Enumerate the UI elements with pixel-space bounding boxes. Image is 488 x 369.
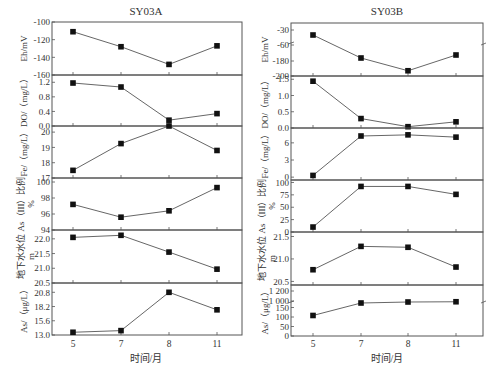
y-tick-label: 21.0 (34, 263, 50, 273)
data-line (73, 32, 217, 65)
y-tick-label: 0.0 (278, 123, 290, 133)
data-point-marker (70, 329, 76, 335)
data-point-marker (358, 116, 364, 122)
y-tick-label: 100 (276, 178, 290, 188)
data-point-marker (358, 244, 364, 250)
panel: 地下水水位m20.521.021.522.0 (15, 230, 242, 288)
data-point-marker (214, 266, 220, 272)
data-point-marker (453, 52, 459, 58)
panel: DO/（mg/L）0.00.51.01.5 (260, 74, 483, 133)
data-line (73, 235, 217, 269)
y-tick-label: 18 (41, 158, 51, 168)
y-tick-label: 100 (276, 312, 290, 322)
y-tick-label: 1 200 (269, 286, 290, 296)
data-point-marker (118, 84, 124, 90)
y-axis-label: As（III）比例% (15, 177, 36, 232)
data-point-marker (166, 249, 172, 255)
data-point-marker (358, 55, 364, 61)
data-point-marker (310, 313, 316, 319)
data-point-marker (118, 233, 124, 239)
y-tick-label: -100 (34, 17, 51, 27)
y-tick-label: 0.5 (278, 107, 290, 117)
y-tick-label: 1.0 (278, 91, 290, 101)
y-tick-label: 21.5 (273, 232, 289, 242)
y-tick-label: 6 (285, 138, 290, 148)
data-point-marker (310, 173, 316, 179)
y-tick-label: 98 (41, 193, 51, 203)
y-axis-label: 地下水水位m (15, 234, 36, 279)
y-tick-label: 25 (280, 215, 290, 225)
data-line (313, 186, 456, 227)
y-tick-label: 100 (37, 177, 51, 187)
data-line (313, 81, 456, 127)
y-tick-label: 20.8 (34, 288, 50, 298)
data-point-marker (405, 132, 411, 138)
y-tick-label: 22.0 (34, 234, 50, 244)
panel: As/（μg/L）0501001501 0001 200 (260, 285, 486, 341)
data-point-marker (166, 117, 172, 123)
y-tick-label: -60 (277, 40, 289, 50)
y-tick-label: 0.8 (39, 92, 51, 102)
y-axis-label: As/（μg/L） (19, 285, 29, 333)
x-tick-label: 7 (119, 339, 124, 349)
y-tick-label: 75 (280, 190, 290, 200)
data-line (73, 126, 217, 170)
data-point-marker (118, 44, 124, 50)
data-point-marker (214, 185, 220, 191)
y-tick-label: -180 (273, 56, 290, 66)
y-axis-label: As（III）比例% (256, 179, 277, 234)
panel: Fe/（mg/L）17181920 (19, 123, 242, 183)
data-point-marker (166, 62, 172, 68)
data-point-marker (310, 78, 316, 84)
y-tick-label: 18.2 (34, 302, 50, 312)
data-point-marker (70, 235, 76, 241)
data-point-marker (166, 208, 172, 214)
data-line (73, 292, 217, 332)
y-tick-label: 21.5 (34, 249, 50, 259)
chart-title-left: SY03A (129, 5, 162, 17)
data-line (73, 83, 217, 120)
y-axis-label: Fe/（mg/L） (19, 128, 29, 177)
y-tick-label: 20 (41, 127, 51, 137)
data-line (313, 35, 456, 71)
data-point-marker (453, 134, 459, 140)
data-point-marker (405, 184, 411, 190)
data-point-marker (310, 32, 316, 38)
data-line (313, 302, 456, 316)
y-tick-label: 21.0 (273, 254, 289, 264)
y-axis-label: DO/（mg/L） (260, 76, 270, 129)
data-point-marker (405, 244, 411, 250)
x-tick-label: 8 (406, 339, 411, 349)
data-point-marker (358, 133, 364, 139)
data-point-marker (166, 123, 172, 129)
data-point-marker (166, 290, 172, 296)
data-line (313, 246, 456, 269)
data-point-marker (118, 141, 124, 147)
y-tick-label: -120 (34, 35, 51, 45)
y-tick-label: 0.4 (39, 107, 51, 117)
chart-SY03B: 57811Eh/mV-30-60-180-200DO/（mg/L）0.00.51… (256, 23, 486, 349)
figure: SY03A SY03B 时间/月 时间/月 57811Eh/mV-100-120… (0, 0, 488, 369)
y-tick-label: -30 (277, 25, 289, 35)
x-tick-label: 5 (311, 339, 316, 349)
data-point-marker (453, 119, 459, 125)
panel: Eh/mV-100-120-140-160 (19, 17, 242, 80)
y-tick-label: 19 (41, 143, 51, 153)
data-point-marker (70, 29, 76, 35)
data-point-marker (453, 299, 459, 305)
y-axis-label: Fe/（mg/L） (260, 130, 270, 179)
x-axis-label-left: 时间/月 (130, 352, 163, 364)
y-tick-label: 1 000 (269, 296, 290, 306)
chart-SY03A: 57811Eh/mV-100-120-140-160DO/（mg/L）0.00.… (15, 17, 242, 349)
data-point-marker (214, 148, 220, 154)
x-tick-label: 11 (212, 339, 221, 349)
data-point-marker (214, 43, 220, 49)
data-point-marker (70, 80, 76, 86)
x-tick-label: 7 (359, 339, 364, 349)
y-tick-label: 20.5 (273, 277, 289, 287)
y-tick-label: 3 (285, 155, 290, 165)
x-tick-label: 5 (71, 339, 76, 349)
y-tick-label: 1.5 (278, 74, 290, 84)
data-point-marker (405, 68, 411, 74)
y-axis-label: DO/（mg/L） (19, 74, 29, 127)
